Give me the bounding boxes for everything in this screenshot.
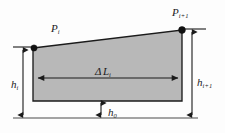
label-p-i-sub: i — [58, 28, 60, 35]
label-h-i-sub: i — [17, 84, 19, 91]
label-delta-l-i: ΔLi — [95, 62, 111, 79]
label-p-i-plus-1-sub: i+1 — [179, 12, 189, 19]
label-p-i-plus-1-base: P — [172, 6, 179, 18]
label-p-i-base: P — [51, 22, 58, 34]
label-h-i-plus-1: hi+1 — [197, 73, 213, 90]
label-h-0-sub: 0 — [114, 112, 117, 119]
figure-container: Pi Pi+1 ΔLi hi hi+1 h0 — [0, 0, 225, 133]
delta-symbol: Δ — [95, 65, 103, 77]
label-h-i: hi — [11, 75, 19, 92]
label-delta-l-i-sub: i — [109, 71, 111, 78]
label-h-0: h0 — [108, 103, 117, 120]
label-p-i-plus-1: Pi+1 — [172, 3, 189, 20]
node-point-p-i — [31, 45, 37, 51]
node-point-p-i-plus-1 — [179, 27, 186, 34]
label-h-i-plus-1-sub: i+1 — [203, 82, 213, 89]
label-p-i: Pi — [51, 19, 60, 36]
